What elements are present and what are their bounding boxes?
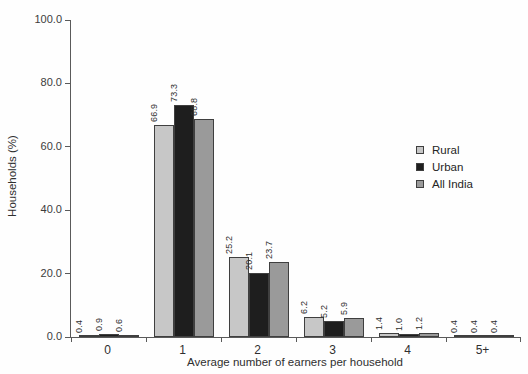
legend-item-rural: Rural <box>416 141 473 158</box>
x-category-label: 4 <box>383 343 433 357</box>
chart-figure: 0.40.90.666.973.368.825.220.123.76.25.25… <box>0 0 528 374</box>
bar-all-india <box>269 262 289 337</box>
x-axis-tick <box>296 337 297 342</box>
x-category-label: 1 <box>158 343 208 357</box>
y-axis-tick <box>65 146 70 147</box>
bar-urban <box>249 273 269 337</box>
bar-value-label: 1.0 <box>394 318 404 331</box>
y-tick-label: 80.0 <box>20 76 62 88</box>
bar-value-label: 0.4 <box>489 319 499 332</box>
bar-urban <box>99 334 119 337</box>
bar-rural <box>379 333 399 337</box>
x-category-label: 3 <box>308 343 358 357</box>
bar-value-label: 1.4 <box>374 316 384 329</box>
legend: Rural Urban All India <box>416 141 473 192</box>
bar-value-label: 0.4 <box>74 319 84 332</box>
bar-value-label: 1.2 <box>414 317 424 330</box>
legend-label-all-india: All India <box>432 178 473 190</box>
y-tick-label: 100.0 <box>20 13 62 25</box>
y-axis-tick <box>65 273 70 274</box>
y-axis-tick <box>65 83 70 84</box>
bar-value-label: 23.7 <box>264 241 274 259</box>
bar-urban <box>474 335 494 337</box>
y-axis-title: Households (%) <box>6 96 18 256</box>
bar-all-india <box>419 333 439 337</box>
x-category-label: 2 <box>233 343 283 357</box>
bar-urban <box>174 105 194 337</box>
y-tick-label: 20.0 <box>20 267 62 279</box>
bar-rural <box>304 317 324 337</box>
y-axis-tick <box>65 337 70 338</box>
urban-swatch-icon <box>416 163 424 171</box>
x-axis-tick <box>520 337 521 342</box>
bar-all-india <box>194 119 214 337</box>
y-tick-label: 40.0 <box>20 203 62 215</box>
bar-all-india <box>494 335 514 337</box>
all-india-swatch-icon <box>416 180 424 188</box>
x-axis-title: Average number of earners per household <box>70 356 520 368</box>
legend-item-urban: Urban <box>416 158 473 175</box>
bar-all-india <box>344 318 364 337</box>
legend-label-rural: Rural <box>432 144 459 156</box>
bar-rural <box>154 125 174 337</box>
bar-value-label: 73.3 <box>169 83 179 101</box>
x-axis-tick <box>446 337 447 342</box>
bar-urban <box>399 334 419 337</box>
y-tick-label: 0.0 <box>20 330 62 342</box>
bar-value-label: 0.4 <box>449 319 459 332</box>
bar-value-label: 6.2 <box>299 301 309 314</box>
bar-value-label: 25.2 <box>224 236 234 254</box>
bar-value-label: 5.2 <box>319 304 329 317</box>
bar-value-label: 68.8 <box>189 98 199 116</box>
rural-swatch-icon <box>416 146 424 154</box>
bar-value-label: 20.1 <box>244 252 254 270</box>
x-axis-tick <box>146 337 147 342</box>
bar-all-india <box>119 335 139 337</box>
y-axis-tick <box>65 210 70 211</box>
bar-rural <box>79 335 99 337</box>
bar-value-label: 5.9 <box>339 302 349 315</box>
y-tick-label: 60.0 <box>20 140 62 152</box>
y-axis-tick <box>65 20 70 21</box>
legend-item-all-india: All India <box>416 175 473 192</box>
legend-label-urban: Urban <box>432 161 463 173</box>
x-axis-tick <box>371 337 372 342</box>
bar-urban <box>324 321 344 337</box>
bar-rural <box>454 335 474 337</box>
bar-value-label: 0.4 <box>469 319 479 332</box>
x-axis-tick <box>71 337 72 342</box>
bar-value-label: 66.9 <box>149 104 159 122</box>
x-category-label: 5+ <box>458 343 508 357</box>
x-axis-tick <box>221 337 222 342</box>
bar-value-label: 0.6 <box>114 319 124 332</box>
x-category-label: 0 <box>83 343 133 357</box>
bar-value-label: 0.9 <box>94 318 104 331</box>
